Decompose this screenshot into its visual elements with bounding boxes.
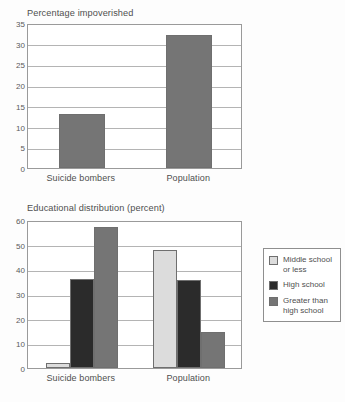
y-axis-tick-label: 10 xyxy=(16,125,25,133)
plot-area-percentage-impoverished: 05101520253035 xyxy=(27,24,242,169)
y-axis-tick-label: 25 xyxy=(16,62,25,70)
bar xyxy=(177,280,201,368)
legend-box: Middle school or lessHigh schoolGreater … xyxy=(263,248,341,322)
x-axis-category-label: Suicide bombers xyxy=(46,173,115,183)
y-axis-tick-label: 20 xyxy=(16,317,25,325)
gridline xyxy=(28,296,241,297)
bar xyxy=(59,114,105,168)
y-axis-tick-label: 50 xyxy=(16,243,25,251)
bar xyxy=(201,332,225,368)
x-axis-category-label: Suicide bombers xyxy=(46,373,115,383)
gridline xyxy=(28,246,241,247)
bar xyxy=(70,279,94,368)
legend-swatch-high-school xyxy=(269,281,278,290)
cut-off-top-text xyxy=(10,0,260,5)
chart-educational-distribution: Educational distribution (percent) 01020… xyxy=(0,203,345,402)
y-axis-tick-label: 20 xyxy=(16,83,25,91)
legend-item: Greater than high school xyxy=(269,296,335,315)
y-axis-tick-label: 30 xyxy=(16,292,25,300)
legend-item-label: Middle school or less xyxy=(283,255,332,274)
y-axis-tick-label: 15 xyxy=(16,104,25,112)
legend-item: High school xyxy=(269,280,335,290)
bar xyxy=(46,363,70,368)
bar xyxy=(153,250,177,368)
y-axis-tick-label: 35 xyxy=(16,21,25,29)
x-axis-category-label: Population xyxy=(166,373,210,383)
figure-page: Percentage impoverished 05101520253035 S… xyxy=(0,0,345,402)
gridline xyxy=(28,320,241,321)
chart-percentage-impoverished: Percentage impoverished 05101520253035 S… xyxy=(0,8,345,198)
bar xyxy=(166,35,212,168)
legend-swatch-middle-school xyxy=(269,256,278,265)
legend-item-label: High school xyxy=(283,280,325,290)
legend-swatch-greater-than-high-school xyxy=(269,297,278,306)
y-axis-tick-label: 0 xyxy=(21,166,25,174)
y-axis-tick-label: 60 xyxy=(16,218,25,226)
y-axis-tick-label: 30 xyxy=(16,42,25,50)
y-axis-tick-label: 5 xyxy=(21,145,25,153)
bar xyxy=(94,227,118,368)
gridline xyxy=(28,271,241,272)
y-axis-tick-label: 40 xyxy=(16,267,25,275)
legend-item: Middle school or less xyxy=(269,255,335,274)
x-axis-category-label: Population xyxy=(166,173,210,183)
y-axis-tick-label: 0 xyxy=(21,366,25,374)
legend-item-label: Greater than high school xyxy=(283,296,328,315)
plot-area-educational-distribution: 0102030405060 xyxy=(27,221,242,369)
chart-title-percentage-impoverished: Percentage impoverished xyxy=(27,8,134,18)
chart-title-educational-distribution: Educational distribution (percent) xyxy=(27,203,165,213)
y-axis-tick-label: 10 xyxy=(16,341,25,349)
